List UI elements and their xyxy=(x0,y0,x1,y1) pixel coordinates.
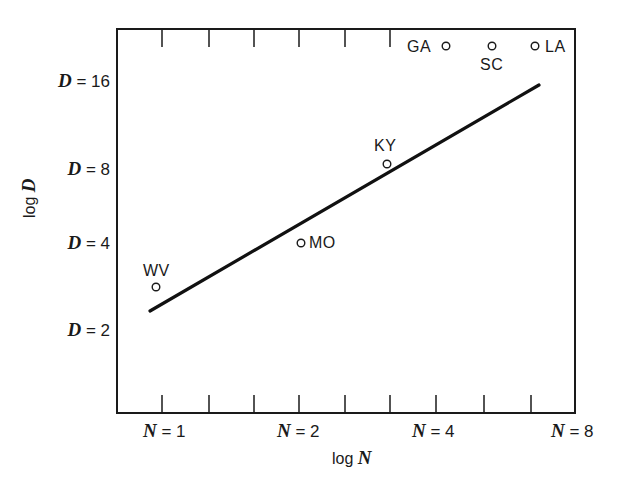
x-tick-label-4: N = 4 xyxy=(412,420,455,442)
y-tick-label-2: D = 2 xyxy=(67,319,110,341)
x-tick-label-2: N = 2 xyxy=(277,420,320,442)
point-sc xyxy=(488,42,496,50)
x-tick-label-1: N = 1 xyxy=(143,420,186,442)
point-la xyxy=(531,42,539,50)
y-tick-label-4: D = 4 xyxy=(67,232,110,254)
fit-line xyxy=(150,85,539,311)
x-top-ticks xyxy=(162,29,390,47)
plot-frame xyxy=(117,29,575,413)
point-label-mo: MO xyxy=(309,234,336,252)
y-axis-title: log D xyxy=(18,178,40,218)
y-tick-label-8: D = 8 xyxy=(67,158,110,180)
point-wv xyxy=(152,283,160,291)
point-label-ky: KY xyxy=(374,137,396,155)
x-tick-label-8: N = 8 xyxy=(551,420,594,442)
point-label-sc: SC xyxy=(480,56,503,74)
data-points xyxy=(152,42,539,291)
point-ky xyxy=(383,160,391,168)
point-mo xyxy=(297,239,305,247)
y-tick-label-16: D = 16 xyxy=(58,70,110,92)
point-ga xyxy=(442,42,450,50)
point-label-ga: GA xyxy=(407,38,431,56)
x-minor-ticks xyxy=(162,395,531,413)
x-axis-title: log N xyxy=(332,447,372,469)
point-label-wv: WV xyxy=(143,262,170,280)
point-label-la: LA xyxy=(545,38,566,56)
